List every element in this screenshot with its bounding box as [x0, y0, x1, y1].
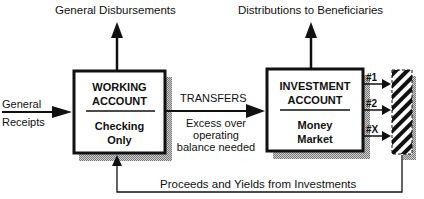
transfers-desc-line3: balance needed: [172, 141, 260, 153]
transfers-arrowhead-icon: [246, 104, 265, 118]
transfers-title: TRANSFERS: [180, 92, 247, 104]
output-label-x: #X: [366, 124, 378, 136]
investment-account-title-line2: ACCOUNT: [269, 94, 361, 106]
feedback-label: Proceeds and Yields from Investments: [160, 178, 356, 190]
investment-account-subtitle: Money Market: [269, 119, 361, 145]
output-2-arrowhead-icon: [382, 105, 391, 115]
working-account-title: WORKING ACCOUNT: [76, 81, 163, 107]
output-x-arrowhead-icon: [382, 131, 391, 141]
output-1-arrowhead-icon: [382, 79, 391, 89]
distributions-label: Distributions to Beneficiaries: [238, 4, 383, 16]
transfers-description: Excess over operating balance needed: [172, 117, 260, 153]
receipts-arrowhead-icon: [52, 106, 72, 118]
receipts-label-line1: General: [2, 98, 41, 110]
investments-box: [392, 70, 412, 154]
disbursements-arrowhead-icon: [111, 22, 123, 38]
general-disbursements-label: General Disbursements: [55, 4, 176, 16]
investment-account-sub-line2: Market: [269, 133, 361, 145]
working-account-title-line2: ACCOUNT: [76, 95, 163, 107]
receipts-label-line2: Receipts: [2, 116, 45, 128]
investment-account-title: INVESTMENT ACCOUNT: [269, 80, 361, 106]
output-label-2: #2: [366, 98, 377, 110]
transfers-desc-line2: operating: [172, 129, 260, 141]
working-account-title-line1: WORKING: [76, 81, 163, 93]
output-label-1: #1: [366, 72, 377, 84]
working-account-sub-line1: Checking: [76, 120, 163, 132]
investment-account-title-line1: INVESTMENT: [269, 80, 361, 92]
transfers-desc-line1: Excess over: [172, 117, 260, 129]
investment-account-sub-line1: Money: [269, 119, 361, 131]
working-account-subtitle: Checking Only: [76, 120, 163, 146]
distributions-arrowhead-icon: [305, 22, 317, 38]
working-account-sub-line2: Only: [76, 134, 163, 146]
